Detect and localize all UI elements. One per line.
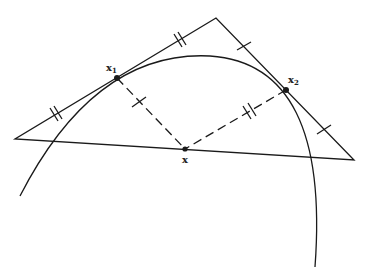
point-x <box>182 146 187 151</box>
label-x1: x1 <box>106 62 117 75</box>
diagram-canvas: x1 x2 x <box>0 0 370 278</box>
point-x2 <box>283 87 289 93</box>
double-tick-left-edge <box>50 106 62 121</box>
triangle <box>15 18 354 160</box>
single-tick-right-edge-upper <box>237 42 251 50</box>
dashed-line-x1-x <box>117 78 185 149</box>
label-x2: x2 <box>288 74 299 87</box>
single-tick-dashed-x1 <box>132 97 146 107</box>
single-tick-right-edge-lower <box>317 125 331 134</box>
label-center-x: x <box>182 154 189 165</box>
point-x1 <box>114 75 120 81</box>
circle-arc <box>20 56 317 267</box>
dashed-line-x2-x <box>185 90 286 149</box>
